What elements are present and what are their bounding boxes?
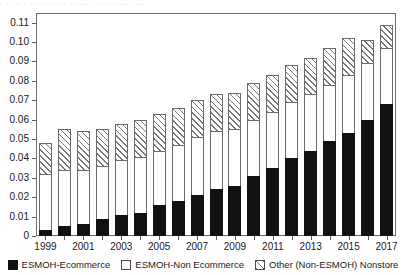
x-axis-tick-mark	[235, 236, 236, 240]
stacked-bar-chart: 00.010.020.030.040.050.060.070.080.090.1…	[0, 0, 406, 275]
y-axis-tick-label: 0.01	[10, 212, 29, 222]
x-axis-tick-label: 2015	[338, 241, 360, 252]
bar-segment-other-nonstore	[304, 58, 317, 95]
x-axis-tick-mark	[330, 236, 331, 240]
bar-segment-esmoh-ecommerce	[285, 158, 298, 236]
x-axis-tick-mark	[197, 236, 198, 240]
bar-segment-esmoh-non-ecommerce	[285, 102, 298, 158]
bar-segment-esmoh-non-ecommerce	[58, 170, 71, 226]
bar-group	[191, 100, 204, 236]
bar-segment-esmoh-non-ecommerce	[361, 63, 374, 119]
x-axis-tick-mark	[140, 236, 141, 240]
bar-group	[304, 58, 317, 236]
x-axis-tick-mark	[64, 236, 65, 240]
bar-segment-other-nonstore	[134, 120, 147, 157]
x-axis-tick-mark	[349, 236, 350, 240]
bar-group	[96, 129, 109, 236]
y-axis-tick-label: 0.07	[10, 95, 29, 105]
x-axis-tick-mark	[273, 236, 274, 240]
y-axis-tick-label: 0.10	[10, 37, 29, 47]
bar-segment-esmoh-ecommerce	[210, 189, 223, 236]
y-axis-tick-label: 0.05	[10, 134, 29, 144]
bar-segment-esmoh-ecommerce	[77, 224, 90, 236]
legend-swatch-icon	[255, 260, 265, 270]
x-axis-tick-mark	[159, 236, 160, 240]
bar-segment-esmoh-ecommerce	[323, 141, 336, 236]
bar-segment-esmoh-ecommerce	[304, 151, 317, 236]
bar-segment-other-nonstore	[266, 75, 279, 112]
bar-segment-esmoh-non-ecommerce	[115, 160, 128, 214]
legend-label: ESMOH-Non Ecommerce	[135, 260, 244, 270]
bar-group	[361, 40, 374, 236]
bar-group	[247, 83, 260, 236]
bar-segment-esmoh-non-ecommerce	[77, 170, 90, 224]
legend-entry: ESMOH-Non Ecommerce	[121, 260, 244, 270]
x-axis-tick-mark	[216, 236, 217, 240]
bar-group	[77, 131, 90, 236]
bar-segment-esmoh-ecommerce	[361, 120, 374, 236]
bar-segment-esmoh-ecommerce	[153, 205, 166, 236]
bar-segment-esmoh-ecommerce	[134, 213, 147, 236]
bar-segment-other-nonstore	[361, 40, 374, 63]
bar-segment-esmoh-ecommerce	[172, 201, 185, 236]
bar-segment-other-nonstore	[77, 131, 90, 170]
x-axis-tick-mark	[121, 236, 122, 240]
bar-segment-esmoh-non-ecommerce	[323, 85, 336, 141]
legend-swatch-icon	[121, 260, 131, 270]
x-axis-tick-mark	[254, 236, 255, 240]
legend-swatch-icon	[8, 260, 18, 270]
chart-legend: ESMOH-EcommerceESMOH-Non EcommerceOther …	[0, 257, 406, 273]
bar-segment-esmoh-ecommerce	[247, 176, 260, 236]
x-axis-tick-mark	[387, 236, 388, 240]
bar-group	[115, 124, 128, 236]
bar-segment-esmoh-non-ecommerce	[304, 94, 317, 150]
x-axis-tick-label: 2007	[186, 241, 208, 252]
legend-entry: ESMOH-Ecommerce	[8, 260, 111, 270]
bar-segment-esmoh-non-ecommerce	[134, 157, 147, 213]
bar-segment-esmoh-non-ecommerce	[210, 131, 223, 189]
bar-segment-esmoh-ecommerce	[380, 104, 393, 236]
y-axis-tick-label: 0	[23, 231, 29, 241]
bar-segment-other-nonstore	[285, 65, 298, 102]
legend-entry: Other (Non-ESMOH) Nonstore	[255, 260, 398, 270]
bar-group	[210, 94, 223, 236]
bar-group	[172, 108, 185, 236]
bar-group	[285, 65, 298, 236]
bar-segment-esmoh-ecommerce	[115, 215, 128, 236]
x-axis-tick-label: 2003	[110, 241, 132, 252]
bar-segment-esmoh-non-ecommerce	[96, 166, 109, 218]
bar-segment-esmoh-non-ecommerce	[172, 145, 185, 201]
x-axis-tick-label: 2011	[262, 241, 284, 252]
bar-segment-esmoh-non-ecommerce	[266, 112, 279, 168]
bar-segment-esmoh-non-ecommerce	[191, 137, 204, 195]
bar-group	[39, 143, 52, 236]
y-axis-tick-label: 0.06	[10, 115, 29, 125]
x-axis-tick-label: 2017	[375, 241, 397, 252]
x-axis-tick-label: 2013	[300, 241, 322, 252]
bar-segment-esmoh-ecommerce	[266, 168, 279, 236]
y-axis-tick-label: 0.09	[10, 56, 29, 66]
plot-area	[36, 13, 396, 236]
y-axis-tick-label: 0.11	[10, 18, 29, 28]
bar-segment-other-nonstore	[115, 124, 128, 161]
bar-segment-other-nonstore	[39, 143, 52, 174]
bar-segment-other-nonstore	[247, 83, 260, 120]
x-axis-tick-mark	[368, 236, 369, 240]
bar-group	[266, 75, 279, 236]
bar-segment-other-nonstore	[153, 114, 166, 151]
bar-group	[134, 120, 147, 236]
bar-group	[153, 114, 166, 236]
y-axis-tick-label: 0.03	[10, 173, 29, 183]
bar-segment-other-nonstore	[342, 38, 355, 75]
bar-segment-other-nonstore	[380, 25, 393, 48]
x-axis-tick-mark	[178, 236, 179, 240]
bar-segment-esmoh-ecommerce	[228, 186, 241, 236]
legend-label: Other (Non-ESMOH) Nonstore	[269, 260, 398, 270]
x-axis-tick-label: 2005	[148, 241, 170, 252]
legend-label: ESMOH-Ecommerce	[22, 260, 111, 270]
x-axis-tick-mark	[292, 236, 293, 240]
x-axis-tick-label: 2009	[224, 241, 246, 252]
x-axis: 1999200120032005200720092011201320152017	[36, 236, 396, 256]
x-axis-tick-mark	[45, 236, 46, 240]
bar-segment-esmoh-non-ecommerce	[39, 174, 52, 230]
